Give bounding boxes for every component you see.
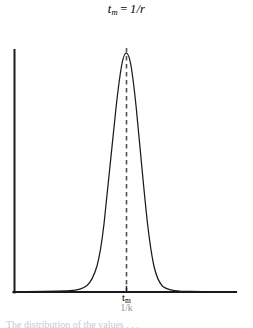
faint-annotation: 1/k <box>0 303 253 314</box>
figure-caption-partial: The distribution of the values . . . <box>6 319 249 328</box>
figure-container: tm=1/r tm 1/k The distribution of the va… <box>0 0 253 328</box>
plot-area <box>0 0 253 328</box>
